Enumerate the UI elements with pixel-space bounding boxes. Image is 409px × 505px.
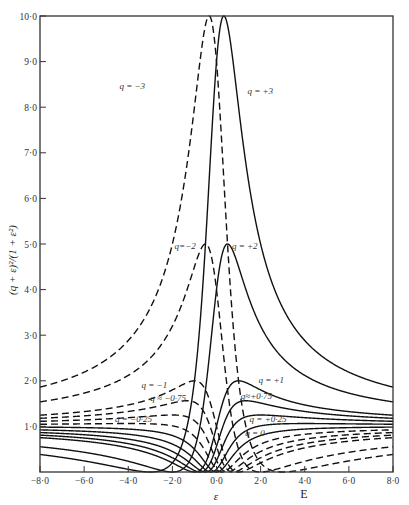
curve-label: q = 0	[245, 428, 265, 438]
x-tick-label: 6·0	[343, 476, 356, 486]
x-tick-label: −6·0	[75, 476, 93, 486]
y-axis-ticks: 1·02·03·04·05·06·07·08·09·010·0	[20, 12, 46, 432]
curve-label: q = −0·25	[115, 414, 152, 424]
x-tick-label: 2·0	[254, 476, 267, 486]
curve-label: q=−2	[175, 241, 197, 251]
curve-label: q ≈ −0·75	[150, 393, 186, 403]
y-tick-label: 6·0	[24, 194, 37, 204]
x-tick-label: −2·0	[163, 476, 181, 486]
x-axis-ticks: −8·0−6·0−4·0−2·00·02·04·06·08·0	[31, 466, 400, 486]
curve-q-2	[40, 244, 393, 472]
curve-label: q = +2	[232, 241, 258, 251]
y-tick-label: 9·0	[24, 57, 37, 67]
y-tick-label: 4·0	[24, 285, 37, 295]
curve-q-3	[40, 16, 393, 472]
curve-q-2	[40, 244, 393, 472]
curve-label: q = −1	[141, 380, 167, 390]
y-tick-label: 10·0	[20, 12, 38, 22]
curve-labels-group: q = +3q = −3q = +2q=−2q = +1q = −1q≈+0·7…	[115, 81, 287, 438]
curve-label: q≈+0·75	[241, 391, 273, 401]
x-axis-label-secondary: E	[300, 487, 307, 501]
x-tick-label: −8·0	[31, 476, 49, 486]
curve-label: q = +3	[247, 86, 273, 96]
x-tick-label: −4·0	[119, 476, 137, 486]
curve-label: q = −3	[119, 81, 145, 91]
y-tick-label: 3·0	[24, 331, 37, 341]
fano-profile-chart: q = +3q = −3q = +2q=−2q = +1q = −1q≈+0·7…	[0, 0, 409, 505]
curve-label: q = +1	[258, 375, 284, 385]
y-tick-label: 8·0	[24, 103, 37, 113]
y-tick-label: 2·0	[24, 376, 37, 386]
curve-q-3	[40, 16, 393, 472]
curve-q-0	[40, 427, 393, 472]
x-tick-label: 8·0	[387, 476, 400, 486]
y-tick-label: 7·0	[24, 148, 37, 158]
x-tick-label: 0·0	[210, 476, 223, 486]
curve-label: q = +0·25	[250, 414, 287, 424]
x-tick-label: 4·0	[298, 476, 311, 486]
x-axis-label: ε	[214, 490, 219, 502]
y-tick-label: 5·0	[24, 240, 37, 250]
curve-q-1	[40, 381, 393, 472]
plot-frame	[40, 16, 393, 472]
y-axis-label: (q + ε)²/(1 + ε²)	[6, 225, 19, 295]
curves-group	[40, 16, 393, 472]
y-tick-label: 1·0	[24, 422, 37, 432]
